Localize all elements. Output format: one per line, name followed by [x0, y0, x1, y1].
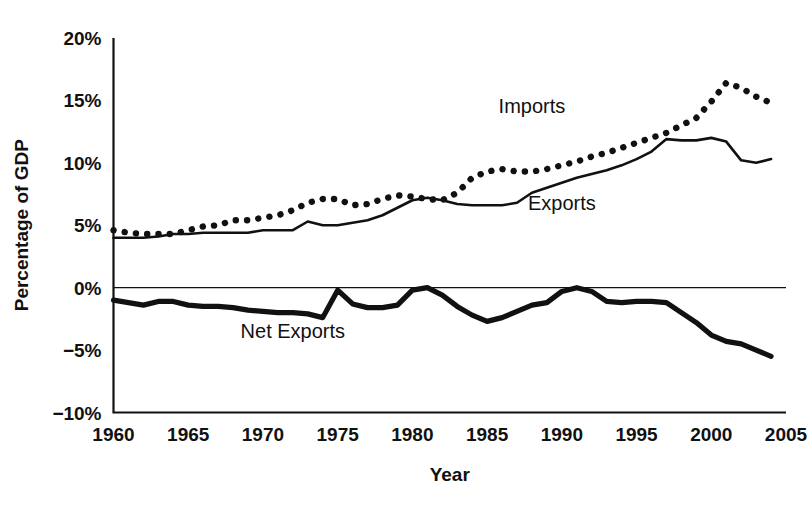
series-label-exports: Exports	[528, 192, 596, 214]
x-tick-label: 1985	[466, 424, 509, 445]
x-tick-label: 1965	[167, 424, 210, 445]
y-tick-label: 0%	[74, 278, 102, 299]
series-line-imports	[114, 83, 772, 234]
x-tick-label: 1980	[391, 424, 433, 445]
y-tick-label: −10%	[52, 403, 101, 424]
gdp-trade-line-chart: 20%15%10%5%0%−5%−10% 1960196519701975198…	[0, 0, 811, 527]
x-tick-label: 1975	[317, 424, 360, 445]
series-label-net-exports: Net Exports	[241, 320, 345, 342]
x-tick-label: 1990	[541, 424, 583, 445]
y-tick-label: 10%	[63, 153, 101, 174]
x-tick-label: 2000	[690, 424, 732, 445]
x-tick-label: 2005	[765, 424, 808, 445]
y-tick-label: 15%	[63, 90, 101, 111]
chart-container: 20%15%10%5%0%−5%−10% 1960196519701975198…	[0, 0, 811, 527]
x-tick-label: 1960	[92, 424, 134, 445]
y-tick-label: 5%	[74, 215, 102, 236]
y-axis-title: Percentage of GDP	[11, 139, 32, 311]
x-axis-tick-labels: 1960196519701975198019851990199520002005	[92, 424, 807, 445]
x-tick-label: 1995	[615, 424, 658, 445]
x-tick-label: 1970	[242, 424, 284, 445]
series-label-imports: Imports	[499, 95, 566, 117]
series-line-net-exports	[114, 288, 772, 357]
y-tick-label: 20%	[63, 28, 101, 49]
x-axis-title: Year	[430, 464, 471, 485]
y-tick-label: −5%	[63, 340, 102, 361]
y-axis-tick-labels: 20%15%10%5%0%−5%−10%	[52, 28, 101, 424]
series-group	[114, 83, 772, 356]
series-line-exports	[114, 138, 772, 238]
